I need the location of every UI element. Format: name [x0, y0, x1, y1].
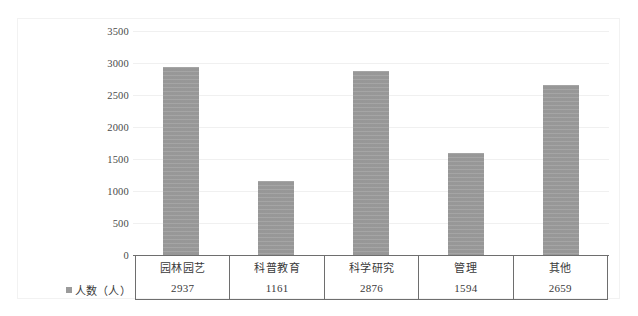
- data-table: 园林园艺 2937 科普教育 1161 科学研究 2876 管理 1594 其他…: [135, 256, 608, 300]
- square-marker-icon: [66, 287, 72, 293]
- table-column: 管理 1594: [419, 256, 513, 299]
- plot-area: [133, 31, 609, 255]
- bar[interactable]: [353, 71, 389, 255]
- table-cell-value: 1594: [419, 278, 512, 300]
- y-axis-tick-label: 3000: [107, 57, 129, 68]
- table-column: 科普教育 1161: [230, 256, 324, 299]
- table-cell-category: 科学研究: [325, 256, 418, 278]
- y-axis-tick-label: 1000: [107, 185, 129, 196]
- bar[interactable]: [163, 67, 199, 255]
- bar-slot: [514, 31, 609, 255]
- y-axis-tick-label: 3500: [107, 26, 129, 37]
- table-column: 其他 2659: [514, 256, 607, 299]
- y-axis-tick-label: 1500: [107, 153, 129, 164]
- legend: 人数（人）: [30, 280, 133, 300]
- bar-chart-figure: 3500 3000 2500 2000 1500 1000 500 0: [0, 0, 638, 316]
- y-axis: 3500 3000 2500 2000 1500 1000 500 0: [85, 31, 129, 255]
- bar-slot: [323, 31, 418, 255]
- bar-slot: [419, 31, 514, 255]
- bar-slot: [133, 31, 228, 255]
- table-cell-value: 2937: [136, 278, 229, 300]
- table-cell-category: 园林园艺: [136, 256, 229, 278]
- y-axis-tick-label: 2000: [107, 121, 129, 132]
- y-axis-tick-label: 500: [113, 217, 129, 228]
- y-axis-tick-label: 0: [124, 250, 129, 261]
- bars-layer: [133, 31, 609, 255]
- table-column: 科学研究 2876: [325, 256, 419, 299]
- bar[interactable]: [258, 181, 294, 255]
- bar[interactable]: [543, 85, 579, 255]
- table-column: 园林园艺 2937: [136, 256, 230, 299]
- y-axis-tick-label: 2500: [107, 89, 129, 100]
- table-cell-value: 2876: [325, 278, 418, 300]
- table-cell-category: 管理: [419, 256, 512, 278]
- table-cell-value: 1161: [230, 278, 323, 300]
- bar[interactable]: [448, 153, 484, 255]
- table-cell-value: 2659: [514, 278, 607, 300]
- bar-slot: [228, 31, 323, 255]
- table-cell-category: 其他: [514, 256, 607, 278]
- table-cell-category: 科普教育: [230, 256, 323, 278]
- legend-series-label: 人数（人）: [75, 282, 132, 298]
